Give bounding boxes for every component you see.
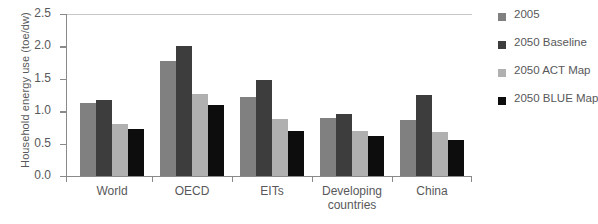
legend-label: 2050 ACT Map — [514, 64, 591, 76]
bar — [288, 131, 304, 176]
y-tick: 2.0 — [60, 46, 66, 47]
bar — [208, 105, 224, 176]
x-tick — [66, 176, 67, 182]
y-tick: 1.5 — [60, 79, 66, 80]
legend-label: 2050 Baseline — [514, 36, 587, 48]
plot-area: 0.00.51.01.52.02.5 — [66, 14, 472, 176]
bar — [416, 95, 432, 176]
bar — [256, 80, 272, 176]
bar — [176, 46, 192, 176]
y-tick: 1.0 — [60, 111, 66, 112]
y-tick: 2.5 — [60, 14, 66, 15]
legend-label: 2050 BLUE Map — [514, 92, 598, 104]
bar — [320, 118, 336, 176]
x-axis-line — [66, 176, 472, 177]
bar — [272, 119, 288, 176]
bar — [240, 97, 256, 176]
bar — [128, 129, 144, 176]
bar — [160, 61, 176, 176]
y-tick-label: 0.0 — [34, 168, 51, 182]
bar-group — [400, 14, 464, 176]
bar — [96, 100, 112, 176]
bar — [336, 114, 352, 176]
bar-group — [160, 14, 224, 176]
bar — [368, 136, 384, 176]
bar-group — [80, 14, 144, 176]
x-tick — [471, 176, 472, 182]
y-axis-title: Household energy use (toe/dw) — [19, 0, 31, 180]
bar — [192, 94, 208, 176]
x-tick — [392, 176, 393, 182]
y-tick-label: 1.0 — [34, 103, 51, 117]
x-tick — [232, 176, 233, 182]
legend-swatch — [498, 69, 506, 77]
bar-group — [320, 14, 384, 176]
x-tick — [312, 176, 313, 182]
bar — [352, 131, 368, 176]
legend-swatch — [498, 41, 506, 49]
legend-swatch — [498, 97, 506, 105]
y-tick-label: 1.5 — [34, 71, 51, 85]
y-tick: 0.5 — [60, 144, 66, 145]
bar — [400, 120, 416, 176]
legend-label: 2005 — [514, 8, 540, 20]
bar — [112, 124, 128, 176]
bar — [80, 103, 96, 176]
legend-swatch — [498, 13, 506, 21]
y-tick-label: 2.5 — [34, 6, 51, 20]
y-tick-label: 2.0 — [34, 38, 51, 52]
category-label: China — [377, 184, 487, 198]
y-axis-line — [66, 14, 67, 176]
bar — [432, 132, 448, 176]
x-tick — [152, 176, 153, 182]
bar — [448, 140, 464, 176]
bar-group — [240, 14, 304, 176]
y-tick-label: 0.5 — [34, 136, 51, 150]
